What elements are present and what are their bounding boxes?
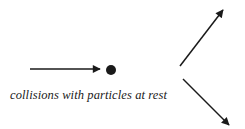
outgoing-arrow-down: [183, 79, 229, 125]
particle-at-rest: [106, 65, 116, 75]
diagram-caption: collisions with particles at rest: [10, 88, 167, 103]
outgoing-arrow-up: [180, 10, 223, 66]
collision-diagram: [0, 0, 245, 129]
